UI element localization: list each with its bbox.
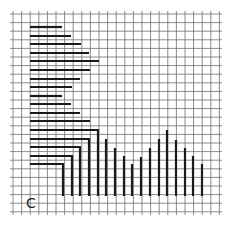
l-shaped-bar [30, 156, 72, 196]
grid-diagram: C [0, 0, 230, 232]
panel-label: C [26, 195, 36, 211]
